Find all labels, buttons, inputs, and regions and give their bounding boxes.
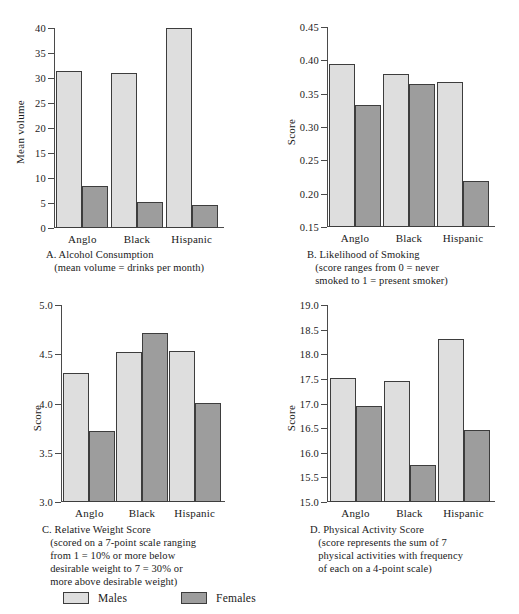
panel-d-y-tick: [321, 404, 327, 405]
panel-a-y-tick: [48, 53, 54, 54]
bar-c-hispanic-females: [195, 403, 221, 502]
panel-d-y-tick: [321, 453, 327, 454]
panel-b-category-label-black: Black: [396, 232, 423, 244]
panel-a-y-axis-label: Mean volume: [14, 92, 26, 172]
legend-label-females: Females: [216, 592, 256, 604]
panel-a-plot-area: 0510152025303540AngloBlackHispanic: [54, 28, 224, 228]
panel-b-caption-line-2: (score ranges from 0 = never: [307, 261, 439, 274]
legend-swatch-males: [63, 592, 89, 604]
panel-a-y-tick: [48, 103, 54, 104]
panel-b-y-tick-label: 0.25: [300, 155, 319, 166]
bar-c-hispanic-males: [169, 351, 195, 502]
panel-a-y-tick-label: 35: [35, 48, 46, 59]
panel-b: Score 0.150.200.250.300.350.400.45AngloB…: [259, 0, 519, 290]
bar-a-black-females: [137, 202, 163, 228]
legend-label-males: Males: [98, 592, 127, 604]
panel-c-caption-line-5: more above desirable weight): [42, 575, 177, 588]
panel-a: Mean volume 0510152025303540AngloBlackHi…: [0, 0, 259, 290]
bar-d-hispanic-males: [438, 339, 464, 503]
panel-d-y-tick-label: 15.5: [300, 472, 319, 483]
panel-a-y-tick: [48, 178, 54, 179]
panel-d-category-label-anglo: Anglo: [341, 507, 370, 519]
panel-a-category-label-black: Black: [124, 233, 151, 245]
bar-d-black-males: [384, 381, 410, 502]
panel-d-y-tick-label: 18.5: [300, 324, 319, 335]
panel-a-category-label-hispanic: Hispanic: [171, 233, 212, 245]
panel-a-y-tick: [48, 153, 54, 154]
bar-a-hispanic-females: [192, 205, 218, 228]
bar-a-hispanic-males: [166, 28, 192, 228]
panel-d-y-tick: [321, 502, 327, 503]
panel-c-caption-line-1: C. Relative Weight Score: [42, 523, 151, 536]
panel-a-y-tick: [48, 28, 54, 29]
panel-b-caption-line-3: smoked to 1 = present smoker): [307, 274, 448, 287]
panel-d-caption-line-1: D. Physical Activity Score: [310, 523, 424, 536]
panel-a-category-label-anglo: Anglo: [68, 233, 97, 245]
bar-b-hispanic-females: [463, 181, 489, 227]
panel-d-y-tick-label: 16.0: [300, 447, 319, 458]
panel-c-caption-line-2: (scored on a 7-point scale ranging: [42, 536, 196, 549]
bar-b-black-females: [409, 84, 435, 227]
panel-c-y-tick-label: 3.0: [39, 497, 53, 508]
panel-d-y-axis: [327, 305, 328, 502]
bar-a-anglo-males: [56, 71, 82, 229]
bar-a-anglo-females: [82, 186, 108, 229]
panel-d-y-tick-label: 17.5: [300, 373, 319, 384]
panel-b-caption-line-1: B. Likelihood of Smoking: [307, 248, 420, 261]
bar-c-black-males: [116, 352, 142, 502]
bar-c-anglo-males: [63, 373, 89, 502]
bar-d-hispanic-females: [464, 430, 490, 502]
panel-c-category-label-hispanic: Hispanic: [174, 507, 215, 519]
panel-b-y-tick: [321, 160, 327, 161]
panel-a-y-tick-label: 30: [35, 73, 46, 84]
panel-d-plot-area: 15.015.516.016.517.017.518.018.519.0Angl…: [327, 305, 495, 502]
panel-d: Score 15.015.516.016.517.017.518.018.519…: [259, 290, 519, 614]
figure-four-panel-bar-charts: Mean volume 0510152025303540AngloBlackHi…: [0, 0, 519, 614]
panel-c-y-tick: [55, 453, 61, 454]
panel-a-y-tick-label: 0: [41, 223, 46, 234]
panel-a-y-tick: [48, 78, 54, 79]
panel-c-y-tick-label: 4.0: [39, 398, 53, 409]
panel-d-y-tick-label: 18.0: [300, 349, 319, 360]
panel-a-y-tick-label: 40: [35, 23, 46, 34]
panel-d-y-tick: [321, 477, 327, 478]
panel-d-caption-line-4: of each on a 4-point scale): [310, 562, 432, 575]
panel-d-y-tick-label: 19.0: [300, 300, 319, 311]
panel-d-y-tick: [321, 354, 327, 355]
panel-b-y-tick-label: 0.30: [300, 122, 319, 133]
panel-a-y-tick: [48, 203, 54, 204]
bar-c-black-females: [142, 333, 168, 502]
panel-a-y-tick-label: 15: [35, 148, 46, 159]
panel-c-y-tick: [55, 404, 61, 405]
panel-a-caption-line-1: A. Alcohol Consumption: [46, 248, 154, 261]
panel-c-y-tick-label: 4.5: [39, 349, 53, 360]
panel-b-y-tick: [321, 60, 327, 61]
panel-b-plot-area: 0.150.200.250.300.350.400.45AngloBlackHi…: [327, 27, 495, 227]
panel-d-y-tick: [321, 305, 327, 306]
panel-d-y-tick: [321, 330, 327, 331]
panel-b-y-tick: [321, 127, 327, 128]
panel-c-category-label-anglo: Anglo: [75, 507, 104, 519]
bar-d-black-females: [410, 465, 436, 502]
panel-d-y-axis-label: Score: [285, 378, 297, 458]
panel-c: Score 3.03.54.04.55.0AngloBlackHispanic …: [0, 290, 259, 614]
panel-c-y-tick: [55, 305, 61, 306]
panel-b-y-axis: [327, 27, 328, 227]
panel-c-caption-line-3: from 1 = 10% or more below: [42, 549, 175, 562]
panel-c-y-tick: [55, 502, 61, 503]
legend: Males Females: [63, 592, 256, 604]
panel-d-category-label-hispanic: Hispanic: [443, 507, 484, 519]
panel-d-category-label-black: Black: [396, 507, 423, 519]
panel-a-y-tick-label: 25: [35, 98, 46, 109]
panel-b-y-tick-label: 0.35: [300, 88, 319, 99]
panel-b-y-tick-label: 0.40: [300, 55, 319, 66]
panel-a-y-tick-label: 10: [35, 173, 46, 184]
panel-b-y-tick: [321, 227, 327, 228]
panel-a-caption-line-2: (mean volume = drinks per month): [46, 261, 204, 274]
bar-d-anglo-females: [356, 406, 382, 502]
panel-d-y-tick-label: 16.5: [300, 423, 319, 434]
panel-a-y-tick-label: 20: [35, 123, 46, 134]
panel-c-y-tick: [55, 354, 61, 355]
panel-a-y-tick: [48, 228, 54, 229]
panel-d-y-tick-label: 17.0: [300, 398, 319, 409]
